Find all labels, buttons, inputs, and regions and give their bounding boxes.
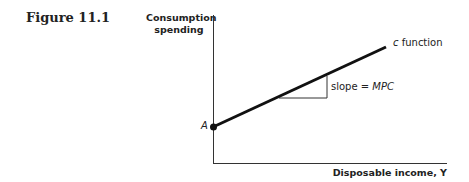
- slope-label: slope = MPC: [331, 81, 394, 92]
- slope-label-text: slope =: [331, 81, 372, 92]
- x-axis-label: Disposable income, Y: [333, 167, 447, 178]
- slope-label-mpc: MPC: [372, 81, 394, 92]
- series-label-text: function: [399, 37, 443, 48]
- chart-plot: [0, 0, 469, 182]
- intercept-point: [210, 124, 217, 131]
- series-label: c function: [393, 37, 443, 48]
- intercept-label: A: [201, 120, 208, 131]
